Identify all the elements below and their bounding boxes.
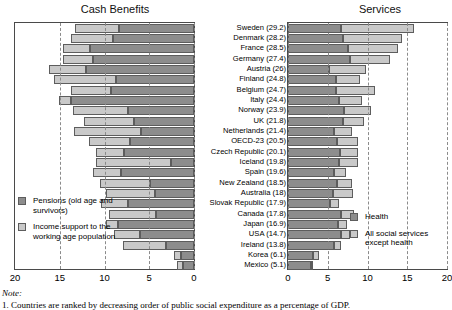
bar-segment (288, 55, 350, 64)
bar-segment (71, 34, 114, 43)
bar-segment (350, 55, 390, 64)
bar-segment (63, 55, 93, 64)
bar-segment (100, 179, 150, 188)
figure-note: Note: 1. Countries are ranked by decreas… (2, 288, 446, 310)
legend-item-pensions: Pensions (old age and survivors) (18, 196, 138, 215)
country-label: Spain (19.6) (196, 167, 286, 176)
bar-segment (288, 189, 333, 198)
legend-swatch-icon (18, 197, 26, 205)
country-label: Iceland (19.8) (196, 157, 286, 166)
country-label: UK (21.8) (196, 116, 286, 125)
bar-segment (73, 106, 128, 115)
bar-segment (336, 86, 374, 95)
gridline (149, 23, 150, 269)
legend-item-other_services: All social services except health (350, 229, 445, 248)
bar-segment (339, 158, 358, 167)
legend-swatch-icon (18, 223, 26, 231)
country-label: Netherlands (21.4) (196, 126, 286, 135)
bar-segment (63, 44, 90, 53)
bar-segment (288, 24, 341, 33)
country-label: Canada (17.8) (196, 209, 286, 218)
bar-segment (183, 261, 194, 270)
country-label: Denmark (28.2) (196, 33, 286, 42)
note-text: 1. Countries are ranked by decreasing or… (2, 300, 446, 310)
bar-segment (341, 230, 350, 239)
cash-benefits-legend: Pensions (old age and survivors)Income s… (18, 196, 138, 248)
cash-benefits-x-axis: 20151050 (0, 272, 210, 286)
bar-segment (338, 220, 347, 229)
bar-segment (288, 86, 336, 95)
bar-segment (84, 117, 134, 126)
legend-label: Income support to the working age popula… (33, 222, 115, 241)
bar-segment (288, 179, 337, 188)
legend-item-income_support: Income support to the working age popula… (18, 222, 138, 241)
gridline (447, 23, 448, 269)
bar-segment (96, 148, 125, 157)
bar-segment (288, 137, 337, 146)
country-label: Japan (16.9) (196, 219, 286, 228)
bar-segment (177, 261, 183, 270)
note-heading: Note: (2, 288, 446, 298)
axis-tick-label: 10 (362, 272, 373, 283)
bar-segment (337, 137, 358, 146)
country-label: Mexico (5.1) (196, 260, 286, 269)
country-label: Korea (6.1) (196, 250, 286, 259)
bar-segment (181, 251, 194, 260)
bar-segment (343, 34, 403, 43)
country-label: Czech Republic (20.1) (196, 147, 286, 156)
cash-benefits-title: Cash Benefits (30, 3, 200, 15)
legend-swatch-icon (350, 230, 358, 238)
services-x-axis: 05101520 (280, 272, 448, 286)
bar-segment (134, 117, 194, 126)
bar-segment (116, 75, 194, 84)
country-label: Slovak Republic (17.9) (196, 198, 286, 207)
bar-segment (288, 34, 343, 43)
bar-segment (336, 75, 361, 84)
legend-label: Pensions (old age and survivors) (33, 196, 113, 215)
bar-segment (90, 44, 194, 53)
bar-segment (288, 251, 313, 260)
bar-segment (288, 210, 341, 219)
country-label: OECD-23 (20.5) (196, 136, 286, 145)
bar-segment (89, 137, 129, 146)
country-label: Austria (26) (196, 64, 286, 73)
bar-segment (329, 65, 366, 74)
bar-segment (288, 199, 330, 208)
bar-segment (113, 34, 194, 43)
bar-segment (49, 65, 86, 74)
axis-tick-label: 0 (191, 272, 196, 283)
axis-tick-label: 20 (442, 272, 452, 283)
country-label: New Zealand (18.5) (196, 178, 286, 187)
country-label: Italy (24.4) (196, 95, 286, 104)
bar-segment (313, 251, 319, 260)
gridline (288, 23, 289, 269)
country-label: Ireland (13.8) (196, 240, 286, 249)
bar-segment (311, 261, 313, 270)
bar-segment (150, 179, 194, 188)
services-legend: HealthAll social services except health (350, 212, 445, 255)
country-label: USA (14.7) (196, 229, 286, 238)
bar-segment (343, 117, 364, 126)
country-label: France (28.5) (196, 43, 286, 52)
axis-tick-label: 10 (99, 272, 110, 283)
country-label: Sweden (29.2) (196, 23, 286, 32)
bar-segment (96, 158, 171, 167)
bar-segment (340, 148, 358, 157)
bar-segment (74, 127, 141, 136)
axis-tick-label: 0 (285, 272, 290, 283)
bar-segment (341, 24, 414, 33)
bar-segment (121, 168, 194, 177)
bar-segment (171, 158, 194, 167)
bar-segment (93, 168, 121, 177)
bar-segment (288, 220, 338, 229)
legend-item-health: Health (350, 212, 445, 222)
bar-segment (119, 24, 194, 33)
bar-segment (288, 117, 343, 126)
bar-segment (288, 261, 311, 270)
bar-segment (334, 168, 346, 177)
bar-segment (288, 148, 340, 157)
bar-segment (288, 44, 348, 53)
axis-tick-label: 15 (54, 272, 65, 283)
bar-segment (93, 55, 194, 64)
bar-segment (330, 199, 339, 208)
